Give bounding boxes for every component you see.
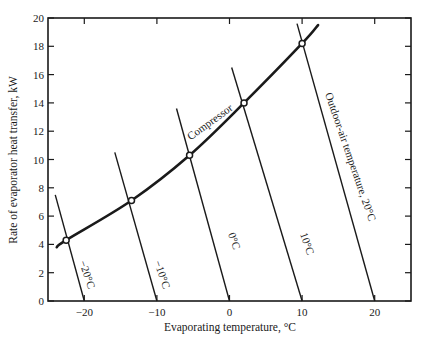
outdoor-m10-label: −10°C [152,259,173,290]
balance-point-marker [187,152,193,158]
y-tick-label: 6 [39,210,45,222]
outdoor-0-label: 0°C [226,231,243,251]
x-tick-label: 20 [369,306,381,318]
y-tick-label: 14 [33,97,45,109]
balance-points [63,40,305,243]
outdoor-10-label: 10°C [298,231,317,256]
plot-series [55,24,374,301]
chart: 02468101214161820−20−1001020 Evaporating… [0,0,425,341]
balance-point-marker [299,40,305,46]
x-tick-label: 10 [297,306,309,318]
y-axis-label: Rate of evaporator heat transfer, kW [7,76,20,244]
x-tick-label: −20 [76,306,94,318]
balance-point-marker [63,237,69,243]
x-axis-label: Evaporating temperature, °C [164,321,296,334]
y-tick-label: 12 [33,125,44,137]
balance-point-marker [128,198,134,204]
x-tick-label: 0 [227,306,233,318]
y-tick-label: 8 [39,182,45,194]
y-tick-label: 4 [39,238,45,250]
outdoor-temp-line [297,24,375,301]
y-tick-label: 16 [33,69,45,81]
outdoor-temp-line [115,152,157,301]
outdoor-temp-line [55,195,84,301]
balance-point-marker [241,100,247,106]
x-tick-label: −10 [148,306,166,318]
outdoor-20-label: Outdoor-air temperature, 20°C [323,91,378,223]
y-tick-label: 18 [33,40,45,52]
outdoor-temp-line [177,109,230,301]
y-tick-label: 20 [33,12,45,24]
y-tick-label: 0 [39,295,45,307]
y-tick-label: 2 [39,267,45,279]
y-tick-label: 10 [33,154,45,166]
